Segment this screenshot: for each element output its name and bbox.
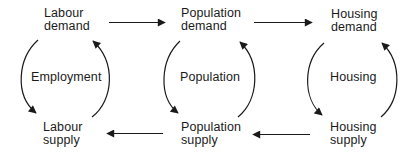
diagram-canvas: Labour demand Population demand Housing … [0,0,412,156]
node-housing-supply: Housing supply [330,121,377,147]
node-housing-supply-line2: supply [330,134,377,147]
node-population-supply: Population supply [181,121,241,147]
node-labour-supply-line2: supply [43,134,83,147]
node-housing-demand: Housing demand [331,8,378,34]
node-population-supply-line2: supply [181,134,241,147]
cycle-label-housing: Housing [330,70,377,84]
node-population-demand: Population demand [181,7,241,33]
node-labour-supply: Labour supply [43,121,83,147]
node-housing-demand-line2: demand [331,21,378,34]
node-labour-demand-line2: demand [44,20,90,33]
node-labour-demand: Labour demand [44,7,90,33]
cycle-label-population: Population [180,70,240,84]
cycle-label-employment: Employment [31,70,101,84]
node-population-demand-line2: demand [181,20,241,33]
